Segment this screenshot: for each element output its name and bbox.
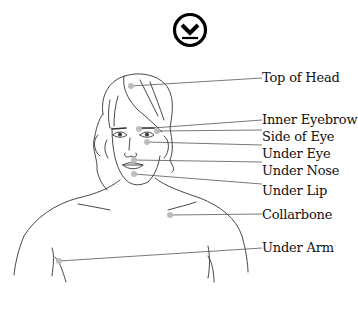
label-under-nose: Under Nose (262, 164, 339, 178)
label-under-arm: Under Arm (262, 241, 334, 255)
label-collarbone: Collarbone (262, 208, 332, 222)
label-under-eye: Under Eye (262, 147, 330, 161)
label-top-of-head: Top of Head (262, 71, 340, 85)
tapping-diagram: Top of Head Inner Eyebrow Side of Eye Un… (0, 0, 358, 313)
label-inner-eyebrow: Inner Eyebrow (262, 113, 357, 127)
label-side-of-eye: Side of Eye (262, 130, 334, 144)
label-under-lip: Under Lip (262, 184, 327, 198)
